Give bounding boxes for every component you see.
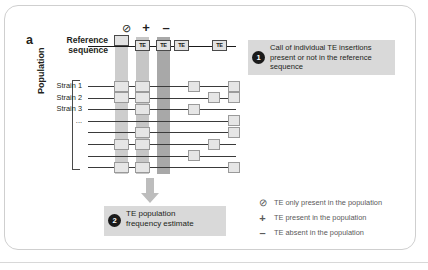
population-te-box xyxy=(228,92,240,103)
strain-line xyxy=(88,109,236,110)
population-te-box xyxy=(188,104,200,115)
legend-row: – TE absent in the population xyxy=(256,226,406,241)
population-te-box xyxy=(114,162,129,173)
population-te-box xyxy=(188,81,200,92)
reference-te-box: TE xyxy=(174,40,189,51)
callout-2-line-2: frequency estimate xyxy=(126,219,194,228)
down-arrow-icon xyxy=(140,178,160,204)
plus-icon: + xyxy=(256,211,269,225)
legend-label: TE absent in the population xyxy=(274,226,364,240)
population-te-box xyxy=(228,127,240,138)
legend: ⊘ TE only present in the population + TE… xyxy=(256,196,406,241)
population-te-box xyxy=(228,115,240,126)
population-te-box xyxy=(135,127,150,138)
reference-te-box: TE xyxy=(135,40,150,51)
reference-te-box: TE xyxy=(156,40,171,51)
strain-label: Strain 1 xyxy=(34,81,82,90)
population-te-box xyxy=(135,104,150,115)
population-te-box xyxy=(114,81,129,92)
callout-1-marker: 1 xyxy=(252,51,265,64)
strain-line xyxy=(88,86,236,87)
reference-te-box: TE xyxy=(212,40,227,51)
reference-empty-box xyxy=(114,35,129,46)
strain-label: ... xyxy=(34,116,82,125)
population-te-box xyxy=(228,162,240,173)
circle-slash-icon: ⊘ xyxy=(256,196,269,210)
legend-label: TE present in the population xyxy=(274,211,366,225)
population-te-box xyxy=(135,139,150,150)
callout-2-marker: 2 xyxy=(108,214,121,227)
population-te-box xyxy=(135,162,150,173)
column-band-only-in-population xyxy=(115,37,128,174)
strain-line xyxy=(88,156,236,157)
population-te-box xyxy=(114,139,129,150)
population-te-box xyxy=(188,150,200,161)
strain-label: Strain 2 xyxy=(34,93,82,102)
strain-label: Strain 3 xyxy=(34,104,82,113)
minus-icon: – xyxy=(256,226,269,240)
strain-line xyxy=(88,167,236,168)
legend-row: + TE present in the population xyxy=(256,211,406,226)
population-te-box xyxy=(208,139,220,150)
callout-2-line-1: TE population xyxy=(126,209,175,218)
population-te-box xyxy=(208,92,220,103)
strain-line xyxy=(88,121,236,122)
callout-2-text: TE population frequency estimate xyxy=(126,209,224,230)
legend-label: TE only present in the population xyxy=(274,196,382,210)
strain-line xyxy=(88,132,236,133)
population-te-box xyxy=(228,81,240,92)
callout-1-text: Call of individual TE insertions present… xyxy=(270,43,393,72)
population-te-box xyxy=(114,92,129,103)
population-te-box xyxy=(135,81,150,92)
column-band-absent xyxy=(157,37,170,174)
population-te-box xyxy=(135,92,150,103)
legend-row: ⊘ TE only present in the population xyxy=(256,196,406,211)
